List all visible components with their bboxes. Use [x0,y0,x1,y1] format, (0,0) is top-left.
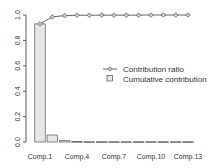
contribution-chart: 0.00.20.40.60.81.0Comp.1Comp.4Comp.7Comp… [0,0,209,168]
legend-label: Cumulative contribution [123,75,207,84]
x-tick-label: Comp.4 [65,153,90,161]
line-point-diamond-icon [173,13,178,18]
x-tick-label: Comp.13 [174,153,203,161]
x-tick-label: Comp.10 [137,153,166,161]
x-tick-label: Comp.7 [102,153,127,161]
y-axis: 0.00.20.40.60.81.0 [14,10,26,147]
y-tick-label: 1.0 [14,10,21,20]
line-point-diamond-icon [124,13,129,18]
bar [158,142,168,143]
line-point-diamond-icon [62,13,67,18]
line-point-diamond-icon [186,13,191,18]
bar [84,142,94,143]
line-point-diamond-icon [75,13,80,18]
bar [47,135,57,142]
bar [146,142,156,143]
line-point-diamond-icon [136,13,141,18]
legend-square-icon [107,76,113,82]
line-point-diamond-icon [149,13,154,18]
bar [35,24,45,142]
legend-diamond-icon [108,67,112,71]
bar [109,142,119,143]
line-series [38,13,191,26]
x-axis-labels: Comp.1Comp.4Comp.7Comp.10Comp.13 [28,153,203,161]
line-point-diamond-icon [161,13,166,18]
line-point-diamond-icon [99,13,104,18]
bar [183,142,193,143]
bar [96,142,106,143]
y-tick-label: 0.8 [14,35,21,45]
bar [170,142,180,143]
bar [133,142,143,143]
y-tick-label: 0.2 [14,112,21,122]
legend: Contribution ratioCumulative contributio… [103,65,207,84]
line-point-diamond-icon [50,15,55,20]
bar [72,142,82,143]
bar [121,142,131,143]
legend-label: Contribution ratio [123,65,184,74]
y-tick-label: 0.4 [14,86,21,96]
line-point-diamond-icon [112,13,117,18]
x-tick-label: Comp.1 [28,153,53,161]
line-point-diamond-icon [87,13,92,18]
y-tick-label: 0.6 [14,61,21,71]
y-tick-label: 0.0 [14,137,21,147]
bar [59,141,69,142]
